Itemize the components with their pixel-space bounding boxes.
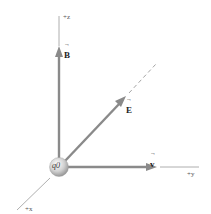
vector-arrow-icon: → [64, 41, 70, 47]
y-axis-label: +y [187, 171, 194, 178]
b-vector-label: → B [64, 45, 70, 61]
b-vector-arrowhead [55, 46, 63, 57]
charge-label-text: q0 [52, 161, 60, 170]
e-vector-label-text: E [126, 105, 132, 115]
vector-arrow-icon: → [126, 96, 132, 102]
diagram-canvas [0, 0, 211, 214]
e-vector-label: → E [126, 100, 132, 116]
v-vector-label: → v [150, 154, 155, 170]
b-vector-label-text: B [64, 50, 70, 60]
vector-arrow-icon: → [150, 150, 156, 156]
charge-label: q0 [52, 162, 60, 170]
e-direction-dashed-line [129, 64, 156, 93]
e-vector-shaft [65, 103, 120, 161]
x-axis-line [17, 178, 50, 210]
x-axis-label: +x [25, 206, 32, 213]
v-vector-label-text: v [150, 159, 155, 169]
z-axis-label: +z [63, 14, 70, 21]
